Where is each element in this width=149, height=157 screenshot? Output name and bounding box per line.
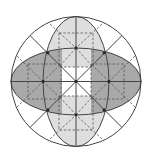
geometric-diagram <box>0 0 149 157</box>
